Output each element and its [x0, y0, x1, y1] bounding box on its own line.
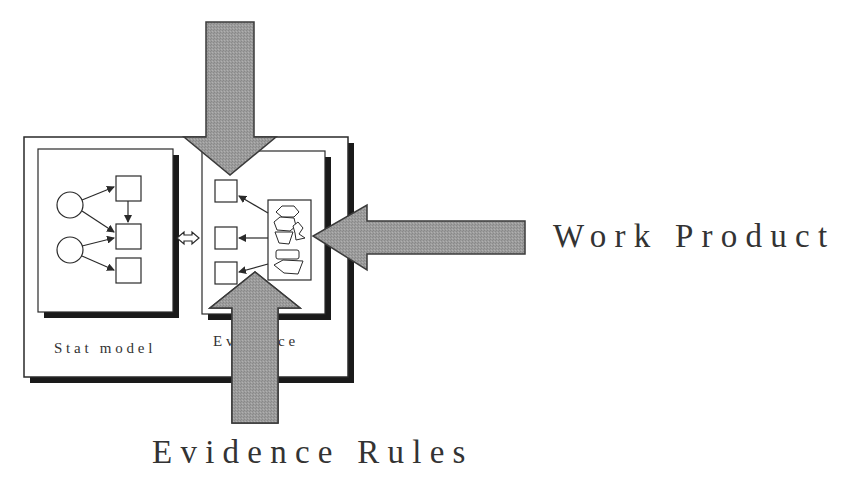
- arrow-overlay: [0, 0, 855, 477]
